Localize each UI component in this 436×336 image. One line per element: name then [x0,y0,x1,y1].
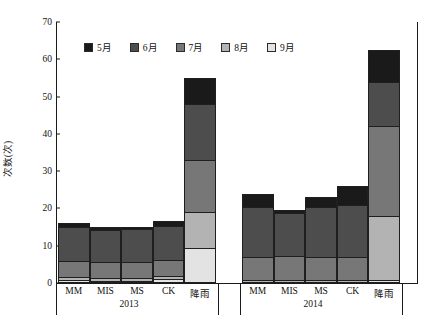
y-axis-label: 次数(次) [0,141,14,177]
x-axis-labels: MMMISMSCK降雨2013MMMISMSCK降雨2014 [56,283,418,323]
bar-segment [337,257,369,280]
bar-segment [153,276,185,279]
bar-segment [242,257,274,280]
bar-segment [242,207,274,257]
bar-segment [337,186,369,205]
y-axis-tick-label: 30 [43,166,53,176]
group-separator [218,283,219,315]
legend-item: 8月 [221,40,249,54]
bar-stack [90,22,122,283]
group-label: 2014 [304,299,323,309]
x-axis-tick-label: 降雨 [374,286,394,300]
bar-stack [58,22,90,283]
bar-stack [368,22,400,283]
bar-segment [153,221,185,225]
group-separator [402,283,403,315]
legend-label: 6月 [143,40,158,54]
bar-segment [58,261,90,277]
bar-stack [153,22,185,283]
plot-area: 010203040506070 [56,22,418,283]
x-axis-tick-label: CK [162,286,175,296]
bar-segment [305,197,337,206]
x-axis-tick-label: MM [65,286,82,296]
x-axis-tick-label: MS [130,286,144,296]
x-axis-tick-label: MM [249,286,266,296]
legend-swatch-icon [267,43,276,52]
chart-legend: 5月6月7月8月9月 [84,40,295,54]
x-axis-tick-label: MIS [281,286,298,296]
x-axis-tick-label: MS [314,286,328,296]
bar-segment [184,160,216,212]
bar-segment [368,50,400,82]
bar-segment [305,257,337,280]
bar-segment [58,277,90,280]
legend-swatch-icon [176,43,185,52]
y-axis-tick-label: 10 [43,241,53,251]
y-axis-tick-label: 40 [43,129,53,139]
bar-segment [184,78,216,104]
legend-label: 7月 [189,40,204,54]
stacked-bar-chart: 次数(次) 010203040506070 5月6月7月8月9月 MMMISMS… [0,0,436,336]
legend-item: 9月 [267,40,295,54]
bar-segment [90,227,122,230]
x-axis-tick-label: 降雨 [190,286,210,300]
bar-segment [58,227,90,261]
legend-label: 8月 [234,40,249,54]
legend-swatch-icon [221,43,230,52]
bar-segment [153,260,185,276]
bar-stack [121,22,153,283]
y-axis-tick-label: 60 [43,54,53,64]
bar-segment [90,278,122,281]
y-axis-tick-label: 0 [47,278,52,288]
bar-stack [337,22,369,283]
bar-segment [90,262,122,278]
legend-item: 6月 [130,40,158,54]
legend-item: 5月 [84,40,112,54]
bar-segment [274,256,306,281]
x-axis-tick-label: CK [346,286,359,296]
bar-segment [90,230,122,262]
bar-stack [242,22,274,283]
y-axis-tick-label: 50 [43,92,53,102]
bar-stack [274,22,306,283]
legend-item: 7月 [176,40,204,54]
legend-label: 9月 [280,40,295,54]
bar-segment [274,210,306,213]
bar-segment [305,207,337,257]
bar-segment [242,194,274,207]
bar-segment [121,278,153,281]
bar-segment [184,248,216,283]
x-axis-tick-label: MIS [97,286,114,296]
bar-segment [368,126,400,215]
bar-stack [305,22,337,283]
legend-label: 5月 [97,40,112,54]
group-label: 2013 [120,299,139,309]
bar-segment [337,205,369,257]
bar-segment [184,212,216,247]
y-axis-tick-label: 20 [43,203,53,213]
bar-segment [121,262,153,278]
bar-segment [184,104,216,160]
legend-swatch-icon [130,43,139,52]
bar-stack [184,22,216,283]
legend-swatch-icon [84,43,93,52]
bar-segment [121,229,153,262]
bar-segment [58,223,90,227]
y-axis-tick-label: 70 [43,17,53,27]
bar-segment [121,227,153,228]
group-separator [56,283,57,315]
group-separator [240,283,241,315]
bar-segment [153,226,185,260]
bar-segment [368,82,400,127]
bar-segment [274,213,306,256]
bar-segment [368,216,400,280]
